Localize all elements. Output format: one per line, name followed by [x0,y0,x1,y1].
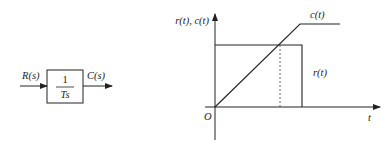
time-plot: r(t), c(t) t O r(t) c(t) [175,9,380,140]
origin-label: O [204,111,212,122]
c-curve-label: c(t) [310,9,325,21]
output-label: C(s) [87,70,106,82]
block-diagram: R(s) 1 Ts C(s) [20,70,112,103]
x-axis-label: t [368,112,372,123]
input-label: R(s) [21,70,40,82]
c-curve [215,24,340,107]
y-axis-label: r(t), c(t) [175,15,209,27]
r-curve-label: r(t) [313,67,328,79]
diagram-canvas: R(s) 1 Ts C(s) r(t), c(t) t O r(t) c(t) [0,0,386,149]
transfer-denominator: Ts [61,89,70,100]
transfer-numerator: 1 [62,74,67,85]
r-curve [215,45,302,107]
